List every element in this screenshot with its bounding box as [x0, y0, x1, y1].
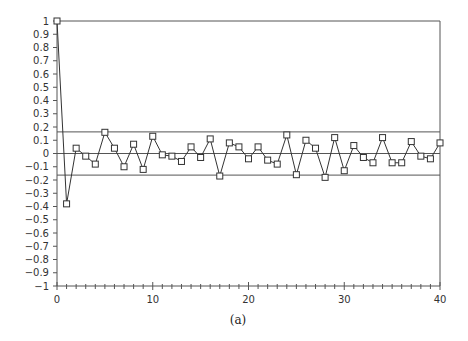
- square-marker: [207, 136, 213, 142]
- square-marker: [236, 144, 242, 150]
- square-marker: [54, 18, 60, 24]
- square-marker: [102, 129, 108, 135]
- y-tick-label: 0.5: [33, 82, 49, 93]
- data-series: [54, 18, 443, 207]
- square-marker: [265, 157, 271, 163]
- square-marker: [188, 144, 194, 150]
- square-marker: [351, 143, 357, 149]
- square-marker: [121, 164, 127, 170]
- square-marker: [303, 137, 309, 143]
- square-marker: [159, 152, 165, 158]
- y-tick-label: −0.5: [25, 214, 49, 225]
- square-marker: [83, 153, 89, 159]
- square-marker: [217, 173, 223, 179]
- x-axis: 010203040: [54, 282, 447, 305]
- square-marker: [332, 135, 338, 141]
- square-marker: [437, 140, 443, 146]
- y-tick-label: −0.1: [25, 161, 49, 172]
- y-tick-label: 0.9: [33, 29, 49, 40]
- square-marker: [322, 174, 328, 180]
- square-marker: [92, 161, 98, 167]
- x-tick-label: 20: [242, 294, 255, 305]
- y-tick-label: 0: [43, 148, 49, 159]
- y-tick-label: −0.8: [25, 254, 49, 265]
- square-marker: [389, 160, 395, 166]
- square-marker: [169, 153, 175, 159]
- y-tick-label: −0.6: [25, 228, 49, 239]
- square-marker: [341, 168, 347, 174]
- square-marker: [370, 160, 376, 166]
- square-marker: [380, 135, 386, 141]
- y-tick-label: 0.1: [33, 135, 49, 146]
- x-tick-label: 0: [54, 294, 60, 305]
- square-marker: [418, 153, 424, 159]
- y-tick-label: −1: [34, 281, 49, 292]
- square-marker: [246, 156, 252, 162]
- y-tick-label: −0.4: [25, 201, 49, 212]
- square-marker: [111, 145, 117, 151]
- x-tick-label: 40: [434, 294, 447, 305]
- figure-caption: (a): [230, 313, 247, 327]
- x-tick-label: 30: [338, 294, 351, 305]
- square-marker: [284, 132, 290, 138]
- autocorrelation-chart: 10.90.80.70.60.50.40.30.20.10−0.1−0.2−0.…: [0, 0, 468, 341]
- square-marker: [198, 154, 204, 160]
- square-marker: [255, 144, 261, 150]
- square-marker: [226, 140, 232, 146]
- series-line: [57, 21, 440, 204]
- square-marker: [313, 145, 319, 151]
- y-tick-label: −0.7: [25, 241, 49, 252]
- y-tick-label: 0.7: [33, 55, 49, 66]
- x-tick-label: 10: [146, 294, 159, 305]
- square-marker: [150, 133, 156, 139]
- square-marker: [178, 158, 184, 164]
- square-marker: [73, 145, 79, 151]
- y-axis: 10.90.80.70.60.50.40.30.20.10−0.1−0.2−0.…: [25, 16, 57, 292]
- y-tick-label: 0.3: [33, 108, 49, 119]
- square-marker: [399, 160, 405, 166]
- square-marker: [427, 156, 433, 162]
- y-tick-label: 0.4: [33, 95, 49, 106]
- square-marker: [408, 139, 414, 145]
- square-marker: [140, 166, 146, 172]
- y-tick-label: −0.9: [25, 267, 49, 278]
- square-marker: [293, 172, 299, 178]
- y-tick-label: 0.6: [33, 69, 49, 80]
- y-tick-label: −0.3: [25, 188, 49, 199]
- y-tick-label: 0.2: [33, 122, 49, 133]
- square-marker: [360, 154, 366, 160]
- square-marker: [131, 141, 137, 147]
- square-marker: [274, 161, 280, 167]
- y-tick-label: 1: [43, 16, 49, 27]
- square-marker: [64, 201, 70, 207]
- y-tick-label: 0.8: [33, 42, 49, 53]
- y-tick-label: −0.2: [25, 175, 49, 186]
